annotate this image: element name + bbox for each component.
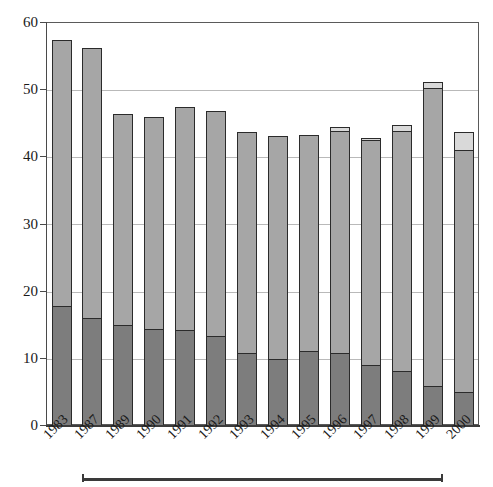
bar-segment-1997-upper-segment (361, 138, 381, 140)
bar-segment-1991-middle-segment (175, 107, 195, 331)
bar-segment-1983-middle-segment (52, 40, 72, 306)
bar-segment-2000-middle-segment (454, 150, 474, 393)
bar-segment-1999-upper-segment (423, 82, 443, 87)
plot-area (46, 22, 479, 425)
gridline-10 (47, 359, 478, 360)
bracket-cap-right (441, 474, 443, 482)
bar-segment-1997-middle-segment (361, 140, 381, 366)
bar-segment-1990-lower-segment (144, 329, 164, 425)
bar-segment-1996-middle-segment (330, 131, 350, 353)
chart-container: 60 50 40 30 20 10 0 19831987198919901991… (0, 0, 493, 487)
bar-1993[interactable] (237, 132, 257, 426)
gridline-20 (47, 292, 478, 293)
bar-segment-1990-middle-segment (144, 117, 164, 329)
bar-1983[interactable] (52, 40, 72, 425)
category-range-bracket (82, 478, 442, 481)
bar-segment-1987-lower-segment (82, 318, 102, 426)
bar-segment-1991-lower-segment (175, 330, 195, 425)
bar-1998[interactable] (392, 125, 412, 425)
y-tick-10 (40, 358, 46, 359)
bar-1997[interactable] (361, 138, 381, 426)
y-tick-30 (40, 224, 46, 225)
bar-segment-1994-middle-segment (268, 136, 288, 359)
y-tick-20 (40, 291, 46, 292)
bar-1989[interactable] (113, 114, 133, 425)
bar-segment-1983-lower-segment (52, 306, 72, 425)
bar-2000[interactable] (454, 132, 474, 426)
bar-segment-1993-middle-segment (237, 132, 257, 353)
y-tick-60 (40, 22, 46, 23)
y-axis-label-10: 10 (4, 351, 38, 366)
bar-1995[interactable] (299, 135, 319, 425)
bar-1987[interactable] (82, 48, 102, 426)
bar-1991[interactable] (175, 107, 195, 425)
bar-segment-1998-middle-segment (392, 131, 412, 371)
bar-segment-1992-middle-segment (206, 111, 226, 337)
bar-segment-1989-lower-segment (113, 325, 133, 425)
bar-segment-1989-middle-segment (113, 114, 133, 325)
gridline-30 (47, 224, 478, 225)
bar-1999[interactable] (423, 83, 443, 426)
bar-segment-1987-middle-segment (82, 48, 102, 318)
bar-segment-1999-middle-segment (423, 88, 443, 386)
bar-segment-1998-upper-segment (392, 125, 412, 130)
bar-1990[interactable] (144, 117, 164, 425)
bar-segment-1995-middle-segment (299, 135, 319, 351)
bracket-cap-left (82, 474, 84, 482)
y-axis-line (46, 22, 47, 426)
y-axis-label-20: 20 (4, 284, 38, 299)
y-axis-label-30: 30 (4, 217, 38, 232)
bar-1992[interactable] (206, 111, 226, 425)
y-tick-50 (40, 89, 46, 90)
y-axis-label-40: 40 (4, 149, 38, 164)
gridline-50 (47, 90, 478, 91)
y-tick-40 (40, 156, 46, 157)
bar-segment-2000-upper-segment (454, 132, 474, 150)
bar-segment-1996-upper-segment (330, 127, 350, 130)
bar-1996[interactable] (330, 128, 350, 426)
y-axis-label-50: 50 (4, 82, 38, 97)
y-axis-label-0: 0 (4, 418, 38, 433)
bar-1994[interactable] (268, 136, 288, 426)
y-axis-label-60: 60 (4, 15, 38, 30)
gridline-40 (47, 157, 478, 158)
